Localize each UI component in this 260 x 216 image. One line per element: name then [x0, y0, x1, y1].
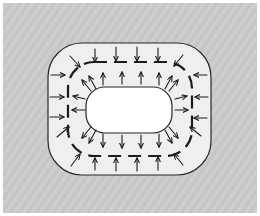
figure-frame — [3, 3, 257, 213]
figure-canvas — [0, 0, 260, 216]
inner-region-boundary — [86, 87, 172, 133]
diagram-svg — [3, 3, 257, 213]
